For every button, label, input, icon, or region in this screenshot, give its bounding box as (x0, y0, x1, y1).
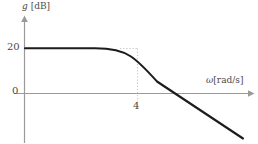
x-axis-label-unit: [rad/s] (213, 75, 243, 85)
x-axis-arrowhead (248, 90, 255, 97)
corner-frequency-guide (120, 49, 138, 106)
y-axis (21, 16, 28, 144)
y-axis-label-unit: [dB] (31, 1, 50, 11)
x-tick-label-4: 4 (133, 101, 139, 111)
x-axis (14, 90, 255, 97)
y-tick-label-20: 20 (7, 42, 20, 52)
y-axis-label-symbol: g (22, 1, 28, 11)
x-axis-label: ω[rad/s] (206, 76, 243, 85)
bode-magnitude-figure: g [dB] ω[rad/s] 20 0 4 (0, 0, 258, 143)
plot-canvas (0, 0, 258, 143)
y-tick-label-0: 0 (12, 86, 18, 96)
y-axis-label: g [dB] (22, 2, 50, 11)
y-axis-arrowhead (21, 16, 28, 23)
